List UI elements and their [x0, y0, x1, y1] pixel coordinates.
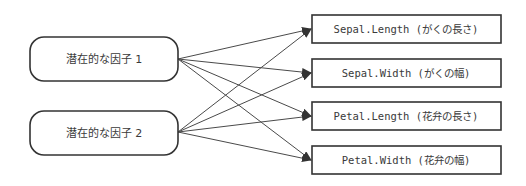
factor-node-2: 潜在的な因子 2: [30, 111, 178, 155]
edge-f1-v3: [178, 59, 311, 116]
edges: [178, 29, 311, 160]
factor-node-1: 潜在的な因子 1: [30, 37, 178, 81]
edge-f2-v3: [178, 116, 311, 132]
edge-f1-v4: [178, 59, 311, 160]
variable-node-petal-width: Petal.Width (花弁の幅): [312, 146, 501, 174]
variable-node-sepal-width: Sepal.Width (がくの幅): [312, 59, 501, 87]
factor-label-2: 潜在的な因子 2: [66, 126, 143, 140]
variable-label-sepal-width: Sepal.Width (がくの幅): [342, 67, 471, 79]
variable-node-petal-length: Petal.Length (花弁の長さ): [312, 102, 501, 130]
variable-label-petal-length: Petal.Length (花弁の長さ): [334, 110, 479, 122]
factor-label-1: 潜在的な因子 1: [66, 52, 143, 66]
edge-f2-v2: [178, 73, 311, 132]
variable-node-sepal-length: Sepal.Length (がくの長さ): [312, 15, 501, 43]
edge-f2-v4: [178, 132, 311, 160]
edge-f1-v2: [178, 59, 311, 73]
factor-diagram: 潜在的な因子 1 潜在的な因子 2 Sepal.Length (がくの長さ) S…: [0, 0, 526, 186]
variable-label-petal-width: Petal.Width (花弁の幅): [342, 154, 471, 166]
variable-label-sepal-length: Sepal.Length (がくの長さ): [334, 23, 479, 35]
